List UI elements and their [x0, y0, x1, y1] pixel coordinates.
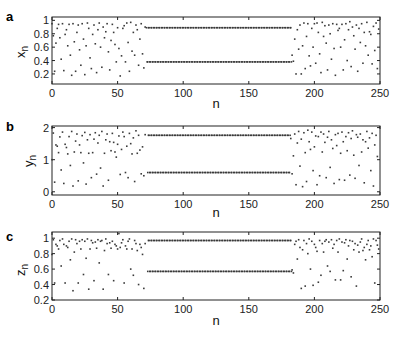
x-tick-label: 150: [240, 87, 258, 99]
x-tick-label: 100: [174, 87, 192, 99]
panel-c-points: [51, 233, 379, 292]
x-tick-label: 250: [371, 303, 389, 315]
x-tick-label: 0: [49, 303, 55, 315]
y-tick-label: 1: [43, 154, 49, 166]
x-tick-label: 150: [240, 303, 258, 315]
panel-c-ticks: 0501001502002500.20.40.60.81: [34, 232, 389, 315]
panel-a-label: a: [6, 9, 14, 24]
y-tick-label: 0.6: [34, 41, 49, 53]
panel-b-axes: [52, 126, 380, 195]
x-tick-label: 200: [305, 198, 323, 210]
x-tick-label: 200: [305, 87, 323, 99]
panel-a-ylabel: xn: [13, 46, 30, 58]
panel-b-ylabel: yn: [21, 155, 38, 167]
y-tick-label: 0.2: [34, 68, 49, 80]
x-tick-label: 200: [305, 303, 323, 315]
svg-text:zn: zn: [13, 264, 30, 276]
y-tick-label: 0.8: [34, 248, 49, 260]
panel-a-xlabel: n: [212, 96, 219, 111]
panel-b-xlabel: n: [212, 205, 219, 220]
panel-c-xlabel: n: [212, 313, 219, 328]
y-tick-label: 2: [43, 122, 49, 134]
y-tick-label: 0.2: [34, 294, 49, 306]
panel-c: c zn 0501001502002500.20.40.60.81 n: [6, 229, 389, 328]
x-tick-label: 50: [111, 303, 123, 315]
y-tick-label: 0.4: [34, 55, 49, 67]
y-tick-label: 1: [43, 14, 49, 26]
svg-text:yn: yn: [21, 155, 38, 167]
x-tick-label: 150: [240, 198, 258, 210]
panel-c-axes: [52, 232, 380, 300]
figure: a xn 0501001502002500.20.40.60.81 n b yn…: [0, 0, 405, 339]
x-tick-label: 100: [174, 198, 192, 210]
panel-a: a xn 0501001502002500.20.40.60.81 n: [6, 9, 389, 111]
x-tick-label: 250: [371, 198, 389, 210]
panel-a-points: [51, 21, 379, 77]
y-tick-label: 1: [43, 232, 49, 244]
panel-c-ylabel: zn: [13, 264, 30, 276]
x-tick-label: 100: [174, 303, 192, 315]
x-tick-label: 50: [111, 198, 123, 210]
svg-text:xn: xn: [13, 46, 30, 58]
y-tick-label: 0.6: [34, 263, 49, 275]
x-tick-label: 0: [49, 87, 55, 99]
x-tick-label: 0: [49, 198, 55, 210]
panel-b-label: b: [6, 119, 14, 134]
x-tick-label: 50: [111, 87, 123, 99]
x-tick-label: 250: [371, 87, 389, 99]
panel-b: b yn 050100150200250012 n: [6, 119, 389, 220]
y-tick-label: 0.8: [34, 28, 49, 40]
y-tick-label: 0: [43, 186, 49, 198]
y-tick-label: 0.4: [34, 279, 49, 291]
panel-b-points: [51, 129, 378, 187]
panel-c-label: c: [6, 229, 13, 244]
